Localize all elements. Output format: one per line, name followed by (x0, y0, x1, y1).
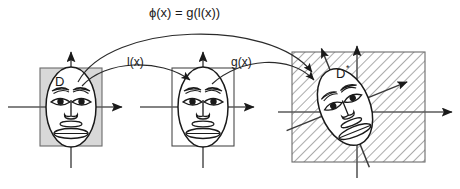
domain-label: D (55, 74, 64, 89)
intermediate-face (178, 67, 228, 147)
source-face (46, 67, 96, 147)
phi-arc-label: ϕ(x) = g(l(x)) (149, 5, 220, 20)
codomain-label: D (336, 66, 345, 81)
l-arc-label: l(x) (127, 55, 144, 69)
commutative-diagram-svg: D (0, 0, 460, 189)
codomain-star: * (346, 63, 350, 73)
figure-canvas: D (0, 0, 460, 189)
g-arc-label: g(x) (231, 55, 252, 69)
